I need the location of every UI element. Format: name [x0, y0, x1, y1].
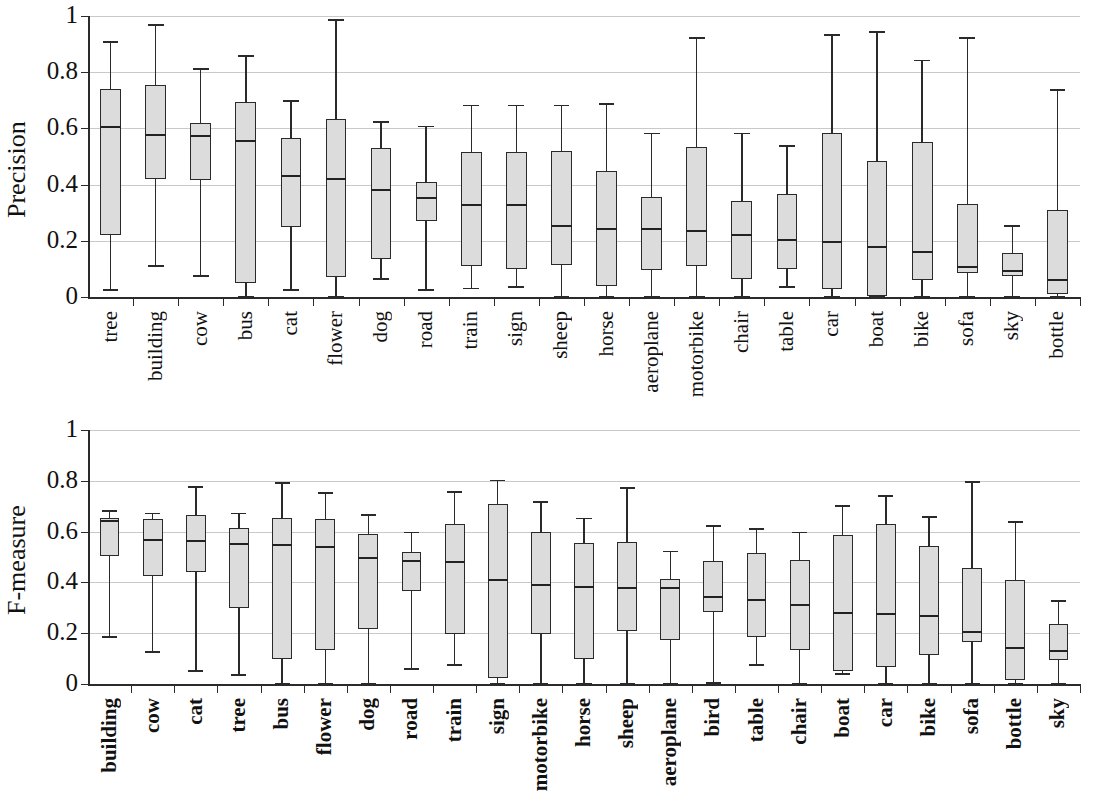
- x-tick-mark: [404, 297, 405, 306]
- x-tick-label: sign: [505, 311, 526, 346]
- x-tick-label: table: [776, 311, 797, 352]
- x-tick-label: sky: [1001, 311, 1022, 340]
- x-tick-label: sheep: [616, 698, 637, 748]
- x-tick-mark: [951, 684, 952, 693]
- x-tick-label: bird: [702, 698, 723, 737]
- x-tick-label: cat: [280, 311, 301, 335]
- precision-plot-area: [88, 16, 1080, 297]
- x-tick-mark: [133, 297, 134, 306]
- x-tick-mark: [778, 684, 779, 693]
- x-tick-label: building: [145, 311, 166, 381]
- y-tick-label: 0.8: [47, 58, 78, 83]
- x-tick-mark: [433, 684, 434, 693]
- x-tick-label: horse: [573, 698, 594, 747]
- iqr-box: [1049, 624, 1069, 660]
- x-tick-mark: [994, 684, 995, 693]
- lower-whisker-cap: [1050, 296, 1066, 298]
- x-tick-label: sign: [487, 698, 508, 734]
- box-plot-item: [88, 16, 1080, 297]
- x-tick-label: train: [460, 311, 481, 349]
- x-tick-mark: [1080, 684, 1081, 693]
- x-tick-mark: [1080, 297, 1081, 306]
- x-tick-mark: [449, 297, 450, 306]
- x-tick-mark: [131, 684, 132, 693]
- x-tick-label: horse: [596, 311, 617, 357]
- x-tick-label: car: [821, 311, 842, 337]
- x-tick-mark: [821, 684, 822, 693]
- y-tick-label: 1: [66, 416, 79, 441]
- x-tick-label: dog: [357, 698, 378, 731]
- x-tick-mark: [174, 684, 175, 693]
- x-tick-label: cow: [190, 311, 211, 346]
- y-tick-label: 0.2: [47, 619, 78, 644]
- x-tick-mark: [629, 297, 630, 306]
- precision-panel: Precision 00.20.40.60.81 treebuildingcow…: [0, 0, 1093, 400]
- x-tick-mark: [313, 297, 314, 306]
- x-tick-label: aeroplane: [641, 311, 662, 393]
- y-tick-label: 0.4: [47, 171, 78, 196]
- x-tick-label: road: [415, 311, 436, 348]
- x-tick-mark: [649, 684, 650, 693]
- x-tick-label: train: [444, 698, 465, 742]
- y-tick-label: 0.8: [47, 467, 78, 492]
- y-tick-label: 0: [66, 283, 79, 308]
- iqr-box: [1047, 210, 1068, 294]
- fmeasure-plot-area: [88, 430, 1080, 684]
- x-tick-mark: [606, 684, 607, 693]
- lower-whisker: [1058, 660, 1059, 684]
- y-tick-label: 0.2: [47, 227, 78, 252]
- x-tick-label: bus: [235, 311, 256, 340]
- x-tick-label: sofa: [961, 698, 982, 734]
- y-tick-mark: [81, 684, 89, 685]
- fmeasure-panel: F-measure 00.20.40.60.81 buildingcowcatt…: [0, 405, 1093, 807]
- x-tick-mark: [584, 297, 585, 306]
- x-tick-label: table: [746, 698, 767, 742]
- x-tick-mark: [261, 684, 262, 693]
- x-tick-label: bike: [918, 698, 939, 737]
- y-axis-label-fmeasure: F-measure: [2, 435, 36, 685]
- lower-whisker-cap: [1051, 683, 1066, 685]
- y-tick-mark: [81, 297, 89, 298]
- x-tick-label: tree: [228, 698, 249, 733]
- x-tick-label: chair: [731, 311, 752, 353]
- x-tick-label: sofa: [956, 311, 977, 346]
- x-tick-label: boat: [866, 311, 887, 347]
- x-tick-mark: [855, 297, 856, 306]
- y-tick-label: 0.6: [47, 114, 78, 139]
- y-tick-label: 0.4: [47, 568, 78, 593]
- x-tick-mark: [539, 297, 540, 306]
- upper-whisker: [1058, 600, 1059, 624]
- x-tick-label: sky: [1047, 698, 1068, 728]
- x-tick-label: flower: [314, 698, 335, 755]
- x-tick-label: tree: [100, 311, 121, 342]
- x-tick-mark: [359, 297, 360, 306]
- x-tick-mark: [809, 297, 810, 306]
- x-tick-mark: [178, 297, 179, 306]
- x-tick-mark: [900, 297, 901, 306]
- x-tick-mark: [494, 297, 495, 306]
- x-tick-mark: [864, 684, 865, 693]
- x-tick-mark: [223, 297, 224, 306]
- median-line: [1047, 279, 1068, 281]
- y-tick-label: 0.6: [47, 518, 78, 543]
- x-tick-mark: [990, 297, 991, 306]
- upper-whisker-cap: [1051, 600, 1066, 602]
- x-tick-mark: [719, 297, 720, 306]
- x-tick-label: bus: [271, 698, 292, 730]
- x-tick-mark: [304, 684, 305, 693]
- x-tick-mark: [268, 297, 269, 306]
- x-tick-mark: [390, 684, 391, 693]
- x-tick-label: bottle: [1004, 698, 1025, 749]
- y-tick-label: 0: [66, 670, 79, 695]
- x-tick-mark: [735, 684, 736, 693]
- x-tick-label: road: [400, 698, 421, 740]
- upper-whisker: [1057, 89, 1058, 210]
- median-line: [1049, 650, 1069, 652]
- x-tick-label: bottle: [1046, 311, 1067, 359]
- x-tick-mark: [217, 684, 218, 693]
- x-tick-label: car: [875, 698, 896, 727]
- x-tick-mark: [519, 684, 520, 693]
- x-tick-label: bike: [911, 311, 932, 347]
- x-tick-label: sheep: [550, 311, 571, 359]
- box-plot-figure: Precision 00.20.40.60.81 treebuildingcow…: [0, 0, 1093, 807]
